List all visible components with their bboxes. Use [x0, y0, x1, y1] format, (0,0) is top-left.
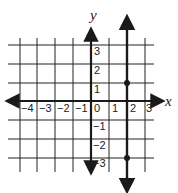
- svg-text:3: 3: [146, 102, 152, 114]
- svg-text:−2: −2: [57, 102, 70, 114]
- svg-text:−4: −4: [21, 102, 34, 114]
- point-2-neg3: [124, 155, 130, 161]
- svg-text:−3: −3: [39, 102, 52, 114]
- svg-text:3: 3: [94, 45, 100, 57]
- point-2-1: [124, 80, 130, 86]
- svg-text:2: 2: [130, 102, 136, 114]
- svg-text:1: 1: [94, 83, 100, 95]
- x-axis-label: x: [164, 93, 172, 109]
- svg-text:−3: −3: [93, 157, 106, 169]
- svg-text:−1: −1: [93, 120, 106, 132]
- svg-text:−2: −2: [93, 139, 106, 151]
- coordinate-plane: y x −4 −3 −2 −1 0 1 2 3 3 2 1 −1 −2 −3: [0, 0, 178, 193]
- x-tick-labels: −4 −3 −2 −1 0 1 2 3: [21, 102, 152, 114]
- svg-text:1: 1: [112, 102, 118, 114]
- svg-text:2: 2: [94, 64, 100, 76]
- y-axis-label: y: [88, 7, 97, 23]
- svg-text:−1: −1: [75, 102, 88, 114]
- svg-text:0: 0: [94, 102, 100, 114]
